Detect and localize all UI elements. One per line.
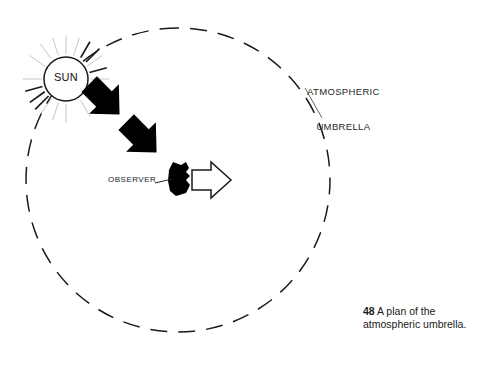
outline-arrow-icon	[192, 162, 231, 198]
observer-label: OBSERVER	[108, 175, 156, 184]
caption-number: 48	[363, 305, 375, 317]
umbrella-label-line1: ATMOSPHERIC	[307, 86, 380, 98]
sun-label: SUN	[44, 71, 88, 83]
atmospheric-umbrella-label: ATMOSPHERIC UMBRELLA	[307, 63, 380, 155]
caption-text-line2: atmospheric umbrella.	[363, 318, 466, 330]
solid-arrow-icon	[111, 107, 171, 167]
figure-caption: 48 A plan of the atmospheric umbrella.	[363, 305, 491, 330]
figure-container: SUN ATMOSPHERIC UMBRELLA OBSERVER 48 A p…	[0, 0, 496, 365]
umbrella-label-line2: UMBRELLA	[307, 121, 380, 133]
caption-text-line1: A plan of the	[375, 305, 436, 317]
